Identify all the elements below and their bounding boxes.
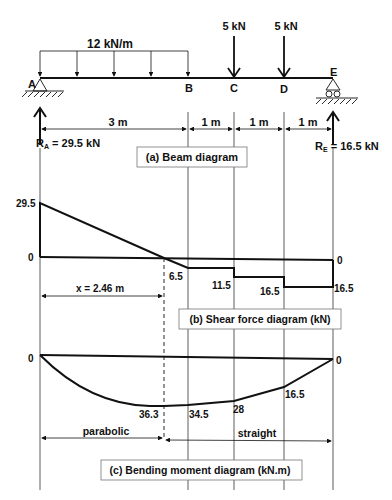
svg-text:6.5: 6.5 — [169, 271, 183, 282]
span-de: 1 m — [299, 116, 318, 128]
parabolic-label: parabolic — [83, 425, 130, 437]
reaction-e-label: RE = 16.5 kN — [315, 140, 379, 153]
moment-caption: (c) Bending moment diagram (kN.m) — [110, 464, 291, 476]
beam-diagram: 12 kN/m 5 kN 5 kN A B C D E RA = 29.5 kN… — [22, 20, 379, 167]
beam-caption: (a) Beam diagram — [146, 151, 239, 163]
shear-force-diagram: 29.5 0 0 6.5 11.5 16.5 16.5 x = 2.46 m (… — [16, 198, 354, 440]
point-c: C — [230, 82, 238, 94]
svg-text:0: 0 — [337, 255, 343, 266]
svg-text:28: 28 — [233, 404, 245, 415]
svg-text:16.5: 16.5 — [260, 286, 280, 297]
svg-text:34.5: 34.5 — [189, 409, 209, 420]
zero-shear-distance: x = 2.46 m — [76, 283, 124, 294]
svg-text:36.3: 36.3 — [139, 409, 159, 420]
span-ab: 3 m — [109, 116, 128, 128]
svg-text:0: 0 — [336, 355, 342, 366]
load-d-label: 5 kN — [274, 20, 297, 32]
shear-caption: (b) Shear force diagram (kN) — [189, 313, 330, 325]
point-d: D — [280, 83, 288, 95]
svg-text:29.5: 29.5 — [16, 198, 36, 209]
span-cd: 1 m — [250, 116, 269, 128]
roller-support-icon — [316, 79, 358, 104]
point-b: B — [185, 82, 193, 94]
point-e: E — [330, 66, 337, 78]
svg-text:16.5: 16.5 — [334, 283, 354, 294]
beam-analysis-diagram: 12 kN/m 5 kN 5 kN A B C D E RA = 29.5 kN… — [0, 0, 392, 500]
straight-label: straight — [238, 427, 277, 439]
bending-moment-diagram: 0 0 36.3 34.5 28 16.5 parabolic straight… — [28, 353, 342, 480]
svg-text:16.5: 16.5 — [285, 389, 305, 400]
svg-text:0: 0 — [28, 252, 34, 263]
udl-label: 12 kN/m — [87, 37, 133, 51]
svg-text:11.5: 11.5 — [212, 280, 231, 291]
svg-text:0: 0 — [28, 353, 34, 364]
reaction-a-label: RA = 29.5 kN — [36, 137, 100, 150]
load-c-label: 5 kN — [222, 20, 245, 32]
span-bc: 1 m — [202, 116, 221, 128]
